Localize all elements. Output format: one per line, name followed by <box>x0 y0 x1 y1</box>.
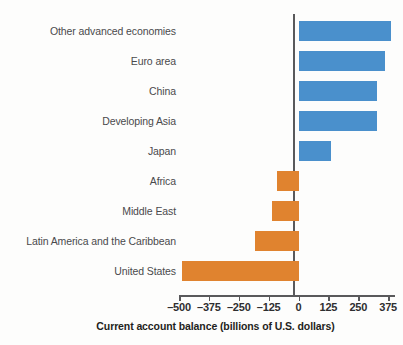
tick-label: 125 <box>320 301 338 313</box>
category-label: United States <box>0 265 176 277</box>
bar-row <box>179 136 403 166</box>
category-label: Euro area <box>0 55 176 67</box>
bar-row <box>179 106 403 136</box>
bar-row <box>179 166 403 196</box>
tick-mark <box>239 295 241 301</box>
tick-mark <box>328 295 330 301</box>
tick-label: –500 <box>167 301 191 313</box>
bar-latin-america-and-the-caribbean <box>255 231 298 251</box>
category-label: Other advanced economies <box>0 25 176 37</box>
bar-row <box>179 46 403 76</box>
tick-label: –375 <box>197 301 221 313</box>
bar-japan <box>299 141 331 161</box>
bar-row <box>179 196 403 226</box>
category-axis-labels: Other advanced economiesEuro areaChinaDe… <box>0 14 176 295</box>
bar-middle-east <box>272 201 299 221</box>
bar-china <box>299 81 377 101</box>
tick-mark <box>209 295 211 301</box>
bar-united-states <box>182 261 298 281</box>
category-label: Japan <box>0 145 176 157</box>
category-label: Africa <box>0 175 176 187</box>
tick-label: –125 <box>257 301 281 313</box>
bar-row <box>179 16 403 46</box>
x-axis-title: Current account balance (billions of U.S… <box>0 320 403 332</box>
bar-row <box>179 226 403 256</box>
tick-mark <box>299 295 301 301</box>
bar-euro-area <box>299 51 385 71</box>
tick-label: 375 <box>379 301 397 313</box>
bar-row <box>179 76 403 106</box>
current-account-balance-chart: Other advanced economiesEuro areaChinaDe… <box>0 0 403 345</box>
bar-other-advanced-economies <box>299 21 391 41</box>
tick-label: –250 <box>227 301 251 313</box>
category-label: China <box>0 85 176 97</box>
tick-mark <box>179 295 181 301</box>
bar-row <box>179 256 403 286</box>
tick-label: 250 <box>349 301 367 313</box>
bar-africa <box>277 171 298 191</box>
tick-mark <box>388 295 390 301</box>
bar-developing-asia <box>299 111 377 131</box>
plot-area <box>179 14 403 295</box>
category-label: Latin America and the Caribbean <box>0 235 176 247</box>
category-label: Middle East <box>0 205 176 217</box>
tick-label: 0 <box>296 301 302 313</box>
tick-mark <box>358 295 360 301</box>
tick-mark <box>269 295 271 301</box>
x-axis-tick-labels: –500–375–250–1250125250375 <box>179 301 403 317</box>
category-label: Developing Asia <box>0 115 176 127</box>
